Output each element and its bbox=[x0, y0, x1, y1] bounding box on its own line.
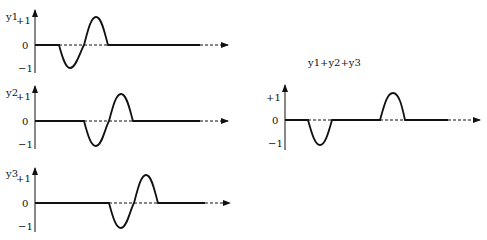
tick-label-neg: −1 bbox=[268, 138, 283, 149]
tick-label-pos: +1 bbox=[16, 173, 31, 184]
tick-label-pos: +1 bbox=[266, 92, 281, 103]
tick-label-zero: 0 bbox=[22, 198, 28, 209]
wave-y3 bbox=[35, 175, 205, 228]
panel-sum: y1+y2+y3 +1 0 −1 bbox=[266, 57, 480, 150]
wave-y1 bbox=[35, 17, 200, 68]
tick-label-zero: 0 bbox=[22, 116, 28, 127]
tick-label-neg: −1 bbox=[18, 139, 33, 150]
tick-label-neg: −1 bbox=[18, 63, 33, 74]
sum-title: y1+y2+y3 bbox=[307, 57, 361, 68]
panel-y3: y3 +1 0 −1 bbox=[5, 168, 230, 232]
tick-label-pos: +1 bbox=[16, 15, 31, 26]
tick-label-zero: 0 bbox=[272, 115, 278, 126]
tick-label-pos: +1 bbox=[16, 91, 31, 102]
panel-y2: y2 +1 0 −1 bbox=[5, 86, 228, 150]
tick-label-neg: −1 bbox=[18, 221, 33, 232]
wave-sum bbox=[285, 93, 448, 145]
panel-y1: y1 +1 0 −1 bbox=[5, 10, 228, 74]
wave-diagram: y1 +1 0 −1 y2 +1 0 −1 y3 +1 0 −1 y1+y2+y… bbox=[0, 0, 487, 240]
wave-y2 bbox=[35, 94, 200, 146]
tick-label-zero: 0 bbox=[22, 40, 28, 51]
